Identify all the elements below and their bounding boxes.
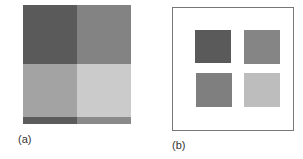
panel-a-top-left [23, 5, 77, 64]
panel-b-square-top-right [244, 30, 280, 64]
panel-b-square-bottom-left [196, 73, 232, 107]
panel-a-top-right [77, 5, 131, 64]
panel-a-bottom-strip-right [77, 117, 131, 124]
panel-b-square-bottom-right [244, 73, 280, 107]
panel-a-overlay-band [10, 64, 143, 117]
panel-a-bottom-strip-left [23, 117, 77, 124]
panel-b-frame [172, 7, 294, 131]
panel-b-label: (b) [172, 139, 185, 151]
panel-b-square-top-left [195, 30, 231, 63]
panel-a-label: (a) [18, 133, 31, 145]
